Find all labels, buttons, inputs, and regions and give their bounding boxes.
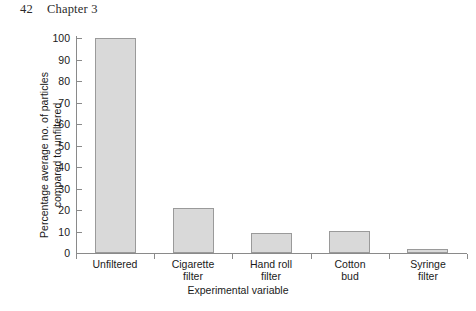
- y-axis-tick-label: 50: [46, 141, 70, 151]
- y-axis-tick: [77, 253, 82, 254]
- y-axis-tick-label: 100: [46, 33, 70, 43]
- y-axis-tick-label: 20: [46, 205, 70, 215]
- y-axis-tick-label: 30: [46, 184, 70, 194]
- x-axis-category-label-line: Hand roll: [232, 258, 310, 270]
- x-axis-category-label: Cottonbud: [311, 258, 389, 282]
- bar: [251, 233, 292, 253]
- y-axis-tick-labels: 0102030405060708090100: [46, 0, 70, 311]
- y-axis-title-container: Percentage average no. of particles comp…: [24, 0, 42, 284]
- x-axis-category-label: Hand rollfilter: [232, 258, 310, 282]
- y-axis-tick-label: 10: [46, 227, 70, 237]
- x-axis-line: [76, 253, 467, 254]
- x-axis-category-label-line: filter: [154, 270, 232, 282]
- x-axis-category-label-line: Cigarette: [154, 258, 232, 270]
- y-axis-tick-label: 90: [46, 55, 70, 65]
- x-axis-category-label-line: bud: [311, 270, 389, 282]
- y-axis-tick-label: 70: [46, 98, 70, 108]
- y-axis-tick-label: 80: [46, 76, 70, 86]
- x-axis-category-label: Cigarettefilter: [154, 258, 232, 282]
- y-axis-tick-label: 0: [46, 248, 70, 258]
- bar-chart-figure: Percentage average no. of particles comp…: [0, 0, 476, 311]
- bar: [329, 231, 370, 253]
- x-axis-category-label-line: filter: [389, 270, 467, 282]
- x-axis-category-label-line: filter: [232, 270, 310, 282]
- bar: [173, 208, 214, 253]
- x-axis-category-label-line: Syringe: [389, 258, 467, 270]
- x-axis-category-label-line: Unfiltered: [76, 258, 154, 270]
- x-axis-category-label-line: Cotton: [311, 258, 389, 270]
- y-axis-tick-label: 60: [46, 119, 70, 129]
- x-axis-title: Experimental variable: [0, 284, 476, 296]
- x-axis-category-label: Syringefilter: [389, 258, 467, 282]
- x-axis-category-label: Unfiltered: [76, 258, 154, 270]
- bar: [95, 38, 136, 253]
- x-axis-tick: [467, 254, 468, 259]
- y-axis-tick-label: 40: [46, 162, 70, 172]
- plot-area: [76, 38, 467, 253]
- bar: [407, 249, 448, 253]
